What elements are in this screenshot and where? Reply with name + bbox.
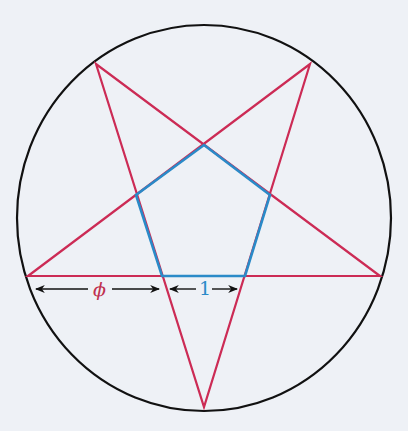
phi-label: ϕ — [93, 280, 106, 299]
inner-pentagon — [136, 145, 270, 276]
one-label: 1 — [199, 279, 211, 298]
diagram-canvas — [0, 0, 408, 431]
circumscribed-circle — [17, 25, 391, 411]
pentagram-star — [28, 64, 380, 407]
pentagram-diagram: ϕ 1 — [0, 0, 408, 431]
